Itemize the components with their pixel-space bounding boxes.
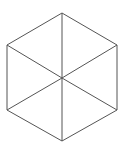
spoke-upper-left — [7, 45, 62, 78]
spoke-lower-right — [62, 78, 117, 110]
hexagon-spokes — [7, 13, 117, 141]
spoke-lower-left — [7, 78, 62, 110]
hexagon-diagram — [0, 0, 126, 145]
spoke-upper-right — [62, 45, 117, 78]
